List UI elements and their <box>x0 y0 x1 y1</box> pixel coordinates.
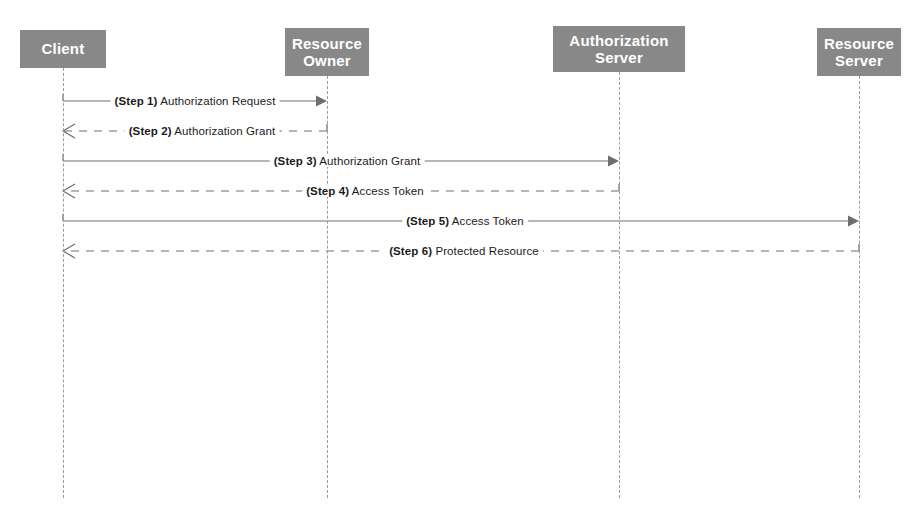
lifeline-resource-server <box>859 76 860 498</box>
lifeline-client <box>63 68 64 498</box>
participant-label: Resource Server <box>824 35 894 70</box>
participant-label: Client <box>42 40 85 57</box>
participant-client[interactable]: Client <box>20 30 106 68</box>
arrowhead-filled <box>316 96 327 107</box>
message-step-text: Authorization Grant <box>319 155 420 167</box>
arrowhead-open <box>63 124 75 138</box>
message-step-text: Access Token <box>452 215 524 227</box>
message-step-number: (Step 1) <box>115 95 158 107</box>
message-label-step-1: (Step 1) Authorization Request <box>111 95 280 107</box>
message-step-number: (Step 6) <box>389 245 432 257</box>
lifeline-authorization-server <box>619 72 620 498</box>
message-label-step-2: (Step 2) Authorization Grant <box>125 125 280 137</box>
participant-resource-owner[interactable]: Resource Owner <box>285 28 369 76</box>
message-step-number: (Step 4) <box>306 185 349 197</box>
arrowhead-filled <box>848 216 859 227</box>
message-step-text: Protected Resource <box>435 245 538 257</box>
arrowhead-open <box>63 184 75 198</box>
participant-label: Authorization Server <box>569 32 668 67</box>
arrowhead-filled <box>608 156 619 167</box>
participant-authorization-server[interactable]: Authorization Server <box>553 26 685 72</box>
message-label-step-4: (Step 4) Access Token <box>302 185 428 197</box>
message-step-number: (Step 3) <box>274 155 317 167</box>
message-step-text: Authorization Grant <box>174 125 275 137</box>
message-step-number: (Step 2) <box>129 125 172 137</box>
message-label-step-3: (Step 3) Authorization Grant <box>270 155 425 167</box>
lifeline-resource-owner <box>327 76 328 498</box>
message-label-step-6: (Step 6) Protected Resource <box>385 245 543 257</box>
message-step-text: Access Token <box>352 185 424 197</box>
participant-label: Resource Owner <box>292 35 362 70</box>
participant-resource-server[interactable]: Resource Server <box>817 28 901 76</box>
sequence-diagram-canvas: ClientResource OwnerAuthorization Server… <box>0 0 923 516</box>
message-arrow-layer <box>0 0 923 516</box>
message-step-text: Authorization Request <box>160 95 275 107</box>
arrowhead-open <box>63 244 75 258</box>
message-label-step-5: (Step 5) Access Token <box>402 215 528 227</box>
message-step-number: (Step 5) <box>406 215 449 227</box>
